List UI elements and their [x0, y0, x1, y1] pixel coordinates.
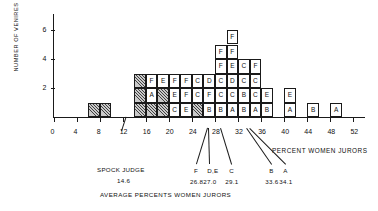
histogram-block-unlabeled [157, 103, 169, 118]
histogram-block-c: C [227, 88, 239, 103]
histogram-block-f: F [146, 74, 158, 89]
histogram-block-e: E [157, 74, 169, 89]
x-tick-label: 36 [258, 128, 266, 135]
histogram-block-f: F [215, 59, 227, 74]
x-tick-label: 40 [281, 128, 289, 135]
histogram-block-e: E [261, 88, 273, 103]
averages-caption: AVERAGE PERCENTS WOMEN JURORS [100, 192, 231, 198]
histogram-block-unlabeled [88, 103, 100, 118]
x-tick-label: 0 [51, 128, 55, 135]
histogram-block-f: F [180, 74, 192, 89]
histogram-block-c: C [238, 59, 250, 74]
histogram-block-b: B [238, 88, 250, 103]
x-tick-label: 16 [143, 128, 151, 135]
x-tick-mark [353, 118, 354, 122]
x-tick-mark [100, 118, 101, 122]
histogram-block-d: D [203, 74, 215, 89]
x-tick-mark [284, 118, 285, 122]
average-marker-value: 29.1 [225, 179, 238, 185]
average-marker-letter: C [229, 168, 234, 174]
histogram-block-unlabeled [134, 74, 146, 89]
x-tick-mark [330, 118, 331, 122]
histogram-block-f: F [180, 88, 192, 103]
histogram-block-b: B [307, 103, 319, 118]
histogram-block-f: F [250, 59, 262, 74]
y-axis-title: NUMBER OF VENIRES [13, 0, 19, 81]
x-tick-mark [54, 118, 55, 122]
average-leader-line [208, 128, 210, 164]
histogram-block-b: B [215, 103, 227, 118]
x-tick-mark [146, 118, 147, 122]
histogram-block-f: F [227, 45, 239, 60]
histogram-block-a: A [227, 103, 239, 118]
histogram-block-f: F [227, 30, 239, 45]
histogram-block-c: C [215, 74, 227, 89]
average-leader-line [220, 128, 232, 164]
histogram-block-b: B [203, 103, 215, 118]
histogram-block-f: F [169, 74, 181, 89]
x-tick-label: 48 [327, 128, 335, 135]
histogram-block-unlabeled [134, 88, 146, 103]
x-tick-mark [261, 118, 262, 122]
histogram-block-d: D [227, 74, 239, 89]
average-marker-letter: D,E [207, 168, 218, 174]
histogram-block-c: C [215, 88, 227, 103]
y-tick-mark [51, 88, 55, 89]
x-tick-mark [169, 118, 170, 122]
average-marker-value: 26.8 [190, 179, 203, 185]
x-tick-label: 4 [74, 128, 78, 135]
spock-judge-label: SPOCK JUDGE [97, 167, 145, 173]
x-tick-mark [215, 118, 216, 122]
y-tick-label: 2 [43, 84, 47, 91]
histogram-block-e: E [284, 88, 296, 103]
average-leader-line [196, 128, 208, 164]
histogram-block-f: F [203, 88, 215, 103]
average-marker-letter: B [269, 168, 273, 174]
x-tick-label: 20 [166, 128, 174, 135]
x-axis-title: PERCENT WOMEN JURORS [272, 148, 367, 154]
average-marker-value: 27.0 [203, 179, 216, 185]
x-tick-label: 52 [350, 128, 358, 135]
histogram-block-unlabeled [157, 88, 169, 103]
y-tick-label: 4 [43, 55, 47, 62]
histogram-block-unlabeled [134, 103, 146, 118]
histogram-block-b: B [261, 103, 273, 118]
x-tick-mark [77, 118, 78, 122]
histogram-block-c: C [238, 74, 250, 89]
histogram-block-e: E [169, 88, 181, 103]
histogram-block-b: B [238, 103, 250, 118]
spock-judge-value: 14.6 [117, 178, 130, 184]
histogram-block-unlabeled [192, 103, 204, 118]
histogram-block-unlabeled [146, 103, 158, 118]
average-marker-value: 33.6 [265, 179, 278, 185]
x-tick-mark [192, 118, 193, 122]
y-tick-label: 6 [43, 26, 47, 33]
histogram-block-c: C [192, 88, 204, 103]
histogram-block-unlabeled [100, 103, 112, 118]
y-tick-mark [51, 30, 55, 31]
histogram-block-f: F [215, 45, 227, 60]
x-tick-mark [238, 118, 239, 122]
average-marker-letter: F [194, 168, 198, 174]
histogram-block-a: A [330, 103, 342, 118]
histogram-block-c: C [192, 74, 204, 89]
y-tick-mark [51, 59, 55, 60]
x-tick-label: 8 [97, 128, 101, 135]
histogram-block-a: A [250, 103, 262, 118]
histogram-block-e: E [227, 59, 239, 74]
histogram-block-a: A [284, 103, 296, 118]
histogram-block-c: C [250, 74, 262, 89]
x-tick-label: 24 [189, 128, 197, 135]
average-marker-value: 34.1 [279, 179, 292, 185]
chart-figure: NUMBER OF VENIRES 246 048121620242832364… [0, 0, 378, 211]
histogram-block-e: E [180, 103, 192, 118]
x-tick-label: 28 [212, 128, 220, 135]
histogram-block-c: C [169, 103, 181, 118]
histogram-block-c: C [250, 88, 262, 103]
average-marker-letter: A [283, 168, 287, 174]
x-tick-mark [307, 118, 308, 122]
x-tick-label: 32 [235, 128, 243, 135]
histogram-block-a: A [146, 88, 158, 103]
x-tick-label: 44 [304, 128, 312, 135]
